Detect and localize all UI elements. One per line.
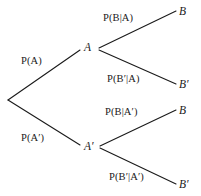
branch-root-to-a bbox=[8, 50, 80, 100]
edge-label-p-b-prime-given-a-prime: P(B′|A′) bbox=[109, 172, 144, 183]
node-b-top: B bbox=[179, 6, 186, 18]
node-a-prime: A′ bbox=[84, 141, 94, 153]
node-b-lower: B bbox=[179, 105, 186, 117]
edge-label-p-b-prime-given-a: P(B′|A) bbox=[107, 74, 140, 85]
tree-branches bbox=[0, 0, 201, 196]
node-a: A bbox=[84, 42, 91, 54]
edge-label-p-b-given-a: P(B|A) bbox=[103, 13, 133, 24]
edge-label-p-b-given-a-prime: P(B|A′) bbox=[105, 107, 138, 118]
edge-label-p-a-prime: P(A′) bbox=[21, 133, 44, 144]
probability-tree-diagram: A A′ B B′ B B′ P(A) P(A′) P(B|A) P(B′|A)… bbox=[0, 0, 201, 196]
node-b-prime-bottom: B′ bbox=[179, 179, 189, 191]
node-b-prime-upper: B′ bbox=[179, 79, 189, 91]
edge-label-p-a: P(A) bbox=[21, 56, 42, 67]
